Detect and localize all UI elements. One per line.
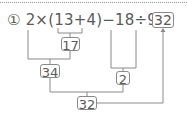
problem-number: ①: [7, 11, 21, 29]
step-value: 17: [62, 38, 79, 53]
expression-text: 2×(13+4)−18÷9=: [26, 11, 170, 29]
answer-box: 32: [152, 12, 174, 28]
step-box-17: 17: [61, 37, 80, 51]
step-box-32: 32: [77, 96, 97, 110]
step-value: 34: [42, 65, 59, 80]
step-value: 32: [79, 97, 96, 112]
step-box-2: 2: [116, 71, 130, 85]
step-value: 2: [119, 72, 127, 87]
step-box-34: 34: [40, 64, 60, 78]
math-expression: ① 2×(13+4)−18÷9=: [7, 12, 170, 28]
answer-value: 32: [154, 12, 172, 28]
